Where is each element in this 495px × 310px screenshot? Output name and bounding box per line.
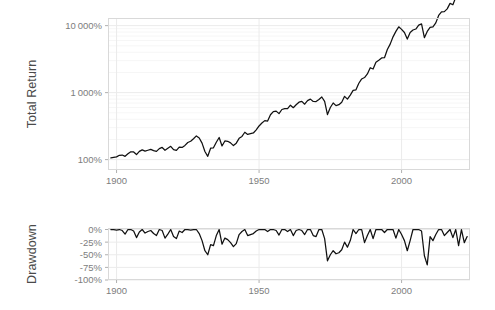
drawdown-xtick-label: 1950	[249, 285, 270, 296]
total-return-ytick-label: 1 000%	[71, 87, 103, 98]
total-return-xtick-label: 2000	[391, 175, 412, 186]
total-return-ytick-label: 100%	[78, 154, 103, 165]
drawdown-plot-background	[108, 228, 470, 280]
drawdown-axis-title: Drawdown	[25, 224, 39, 284]
total-return-ytick-label: 10 000%	[65, 20, 102, 31]
drawdown-ytick-label: -50%	[80, 249, 103, 260]
drawdown-ytick-label: -100%	[75, 274, 103, 285]
total-return-xtick-label: 1900	[106, 175, 127, 186]
total-return-axis-title: Total Return	[25, 60, 39, 129]
total-return-xtick-label: 1950	[249, 175, 270, 186]
drawdown-panel: 0%-25%-50%-75%-100%190019502000	[75, 224, 470, 296]
drawdown-xtick-label: 1900	[106, 285, 127, 296]
charts-canvas: 100%1 000%10 000%190019502000 0%-25%-50%…	[0, 0, 495, 310]
total-return-panel: 100%1 000%10 000%190019502000	[65, 0, 470, 186]
drawdown-xtick-label: 2000	[391, 285, 412, 296]
stock-performance-figure: Total Return Drawdown 100%1 000%10 000%1…	[0, 0, 495, 310]
drawdown-ytick-label: -25%	[80, 237, 103, 248]
drawdown-ytick-label: 0%	[88, 224, 102, 235]
drawdown-ytick-label: -75%	[80, 262, 103, 273]
